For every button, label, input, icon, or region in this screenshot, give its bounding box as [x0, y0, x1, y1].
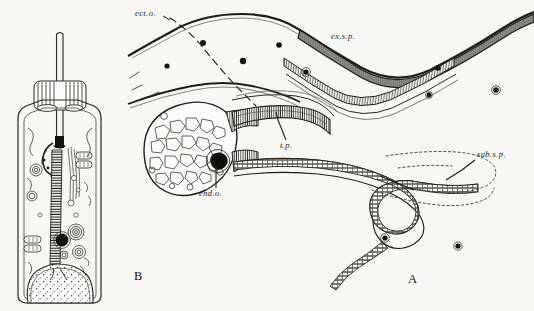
- endoplasmic-lamellae: [80, 182, 91, 274]
- lower-duct: [234, 158, 478, 248]
- duct-tail: [330, 242, 388, 290]
- matrix-fibres: [130, 72, 159, 96]
- sensory-bulb: [144, 102, 237, 195]
- histological-plate: ect.o. ex.s.p. t.p. end.o. sub.s.p. B A: [0, 0, 534, 311]
- ectoderm-lower-border: [128, 83, 300, 104]
- plate-drawing: [0, 0, 534, 311]
- striated-rootlet: [50, 150, 62, 268]
- external-sense-papilla: [284, 14, 534, 120]
- collar: [34, 81, 86, 111]
- figure-label-b: B: [134, 270, 142, 283]
- sub-s-p-leader: [446, 160, 475, 180]
- label-ect-o: ect.o.: [135, 9, 156, 18]
- figure-b-group: [18, 33, 101, 303]
- ect-o-hook: [163, 16, 170, 20]
- label-sub-s-p: sub.s.p.: [477, 150, 506, 159]
- ectoderm-upper-border: [128, 12, 534, 78]
- dark-granule: [54, 232, 71, 249]
- figure-a-group: [128, 12, 534, 290]
- label-end-o: end.o.: [199, 189, 222, 198]
- label-t-p: t.p.: [280, 141, 292, 150]
- label-ex-s-p: ex.s.p.: [331, 32, 355, 41]
- basal-body: [53, 136, 66, 149]
- figure-label-a: A: [408, 273, 417, 286]
